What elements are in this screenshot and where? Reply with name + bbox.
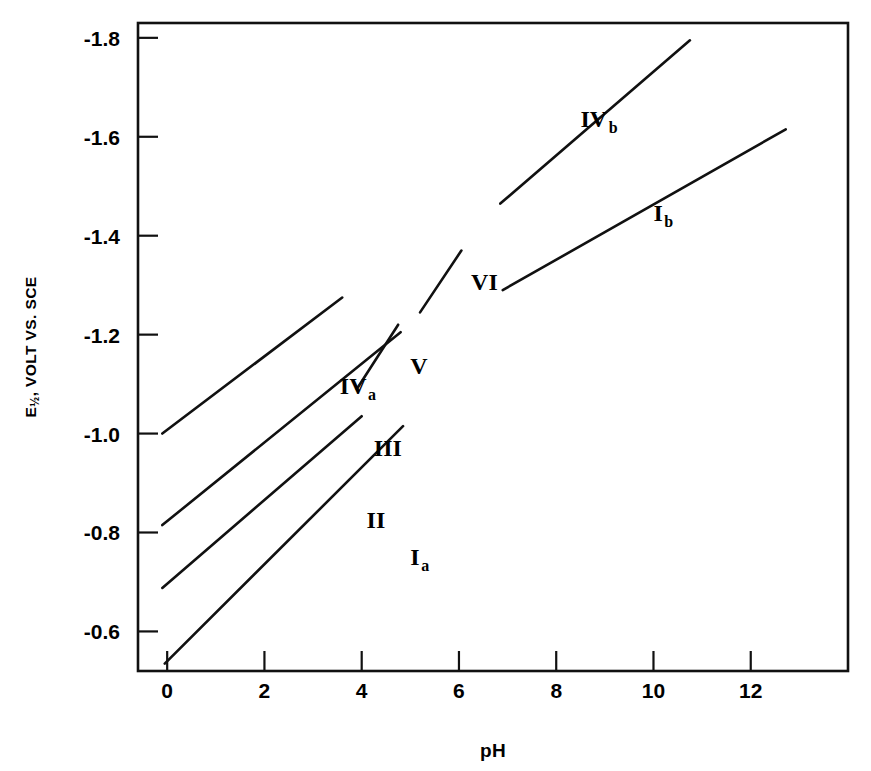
x-tick-label: 12 (739, 679, 762, 702)
series-label-ia: Ia (410, 544, 429, 574)
x-axis-ticks: 024681012 (161, 651, 762, 702)
series-label-ivb: IVb (581, 106, 618, 136)
x-tick-label: 0 (161, 679, 173, 702)
series-line-ia (165, 426, 403, 663)
y-axis-title: E½, VOLT VS. SCE (22, 276, 42, 417)
x-tick-label: 6 (453, 679, 465, 702)
y-tick-label: -1.6 (84, 126, 120, 149)
x-tick-label: 4 (356, 679, 368, 702)
series-label-ib: Ib (653, 200, 673, 230)
y-tick-label: -0.8 (84, 521, 121, 544)
series-label-ii: II (367, 507, 386, 533)
series-label-vi: VI (471, 269, 498, 295)
x-tick-label: 8 (550, 679, 562, 702)
y-tick-label: -1.4 (84, 225, 121, 248)
series-lines-group (162, 40, 785, 663)
series-label-v: V (410, 353, 428, 379)
series-line-iii (162, 332, 400, 525)
series-label-iva: IVa (340, 373, 376, 403)
x-tick-label: 2 (259, 679, 271, 702)
ph-half-wave-potential-chart: -0.6-0.8-1.0-1.2-1.4-1.6-1.8 024681012 I… (0, 0, 871, 771)
series-line-ib (503, 129, 786, 290)
series-line-iva (162, 298, 342, 434)
x-axis-title: pH (480, 740, 506, 761)
y-tick-label: -0.6 (84, 620, 120, 643)
axis-frame-rect (138, 23, 848, 671)
y-tick-label: -1.8 (84, 27, 121, 50)
figure-container: -0.6-0.8-1.0-1.2-1.4-1.6-1.8 024681012 I… (0, 0, 871, 771)
series-label-iii: III (374, 435, 402, 461)
y-tick-label: -1.0 (84, 423, 120, 446)
y-axis-ticks: -0.6-0.8-1.0-1.2-1.4-1.6-1.8 (84, 27, 158, 644)
series-line-vi (420, 251, 461, 313)
x-tick-label: 10 (642, 679, 665, 702)
plot-frame (138, 23, 848, 671)
y-tick-label: -1.2 (84, 324, 120, 347)
